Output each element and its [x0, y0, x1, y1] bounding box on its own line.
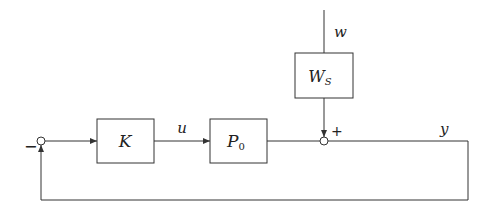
minus-sign: − [24, 137, 37, 156]
plus-sign: + [331, 123, 343, 139]
block-diagram: − K u P0 w WS + y [0, 0, 491, 215]
signal-u-label: u [177, 119, 187, 137]
signal-w-label: w [334, 23, 347, 41]
block-K-label: K [118, 131, 133, 151]
signal-y-label: y [439, 120, 449, 138]
disturbance-summing-junction [320, 137, 328, 145]
feedback-summing-junction [37, 137, 45, 145]
